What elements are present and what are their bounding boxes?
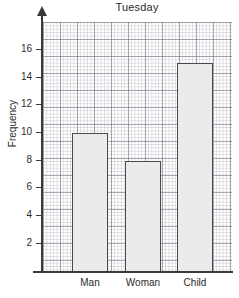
- x-tick-label-man: Man: [70, 277, 110, 288]
- y-tick-mark: [36, 104, 43, 105]
- x-tick-label-woman: Woman: [119, 277, 167, 288]
- y-tick-mark: [36, 160, 43, 161]
- x-axis-line: [33, 271, 233, 273]
- bar-chart: Tuesday Frequency 2 4 6 8 10 12 14 16 Ma…: [0, 0, 239, 298]
- y-tick-label-8: 8: [6, 154, 32, 165]
- y-tick-mark: [36, 243, 43, 244]
- bar-woman: [125, 161, 161, 272]
- y-tick-mark: [36, 77, 43, 78]
- y-tick-mark: [36, 49, 43, 50]
- y-tick-mark: [36, 187, 43, 188]
- y-tick-mark: [36, 132, 43, 133]
- y-tick-mark: [36, 215, 43, 216]
- chart-title: Tuesday: [42, 1, 232, 13]
- y-tick-label-2: 2: [6, 237, 32, 248]
- y-tick-label-14: 14: [6, 71, 32, 82]
- y-tick-label-10: 10: [6, 126, 32, 137]
- y-tick-label-4: 4: [6, 209, 32, 220]
- x-tick-label-child: Child: [174, 277, 216, 288]
- y-axis-arrow-icon: [37, 6, 47, 16]
- y-tick-label-6: 6: [6, 181, 32, 192]
- y-axis-line: [41, 14, 43, 273]
- bar-man: [72, 133, 108, 272]
- y-tick-label-16: 16: [6, 43, 32, 54]
- bar-child: [177, 63, 213, 272]
- y-tick-label-12: 12: [6, 98, 32, 109]
